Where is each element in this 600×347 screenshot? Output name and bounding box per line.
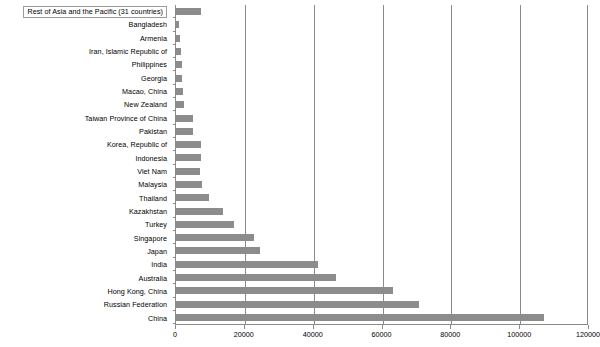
category-label: India [0,258,172,271]
bar[interactable] [176,287,393,294]
category-label: Bangladesh [0,18,172,31]
value-axis-tick-label: 20000 [234,331,254,338]
bar[interactable] [176,168,200,175]
bar-row [176,151,587,164]
category-label-text: Rest of Asia and the Pacific (31 countri… [23,6,167,18]
bar[interactable] [176,88,183,95]
category-label: Singapore [0,232,172,245]
category-tick-mark [173,323,176,324]
bar-row [176,231,587,244]
bar[interactable] [176,301,419,308]
bar-row [176,71,587,84]
bar-row [176,5,587,18]
value-axis-tick [244,325,245,329]
bar[interactable] [176,8,201,15]
bar-row [176,125,587,138]
bar[interactable] [176,181,202,188]
value-axis-tick-label: 40000 [303,331,323,338]
value-axis-tick [588,325,589,329]
bar-row [176,138,587,151]
bar[interactable] [176,194,209,201]
bar-row [176,98,587,111]
category-label: Macao, China [0,85,172,98]
bar-row [176,218,587,231]
category-label: Kazakhstan [0,205,172,218]
bar[interactable] [176,35,180,42]
bar-row [176,204,587,217]
plot-area [175,5,588,325]
category-label: Armenia [0,32,172,45]
bar-row [176,311,587,324]
category-axis-labels: Rest of Asia and the Pacific (31 countri… [0,5,172,325]
value-axis-tick [382,325,383,329]
category-label: Viet Nam [0,165,172,178]
category-label: Turkey [0,218,172,231]
bars-layer [176,5,587,324]
bar-row [176,165,587,178]
bar-row [176,85,587,98]
value-axis-tick [175,325,176,329]
bar-row [176,18,587,31]
category-label: Thailand [0,192,172,205]
category-label: Georgia [0,72,172,85]
bar-row [176,32,587,45]
bar-row [176,244,587,257]
bar[interactable] [176,314,544,321]
bar[interactable] [176,154,201,161]
bar[interactable] [176,21,179,28]
category-label: Taiwan Province of China [0,112,172,125]
bar-row [176,298,587,311]
bar-row [176,271,587,284]
category-label: Malaysia [0,178,172,191]
value-axis-tick-label: 60000 [372,331,392,338]
value-axis-tick [519,325,520,329]
category-label: Philippines [0,58,172,71]
category-label: China [0,312,172,325]
category-label: Indonesia [0,152,172,165]
bar[interactable] [176,75,182,82]
bar[interactable] [176,141,201,148]
category-label: Pakistan [0,125,172,138]
value-axis-tick-label: 100000 [507,331,531,338]
category-label: Hong Kong, China [0,285,172,298]
bar[interactable] [176,208,223,215]
bar-row [176,58,587,71]
bar[interactable] [176,115,193,122]
category-label: New Zealand [0,98,172,111]
value-axis-tick-label: 0 [173,331,177,338]
category-label: Japan [0,245,172,258]
bar-row [176,258,587,271]
bar-row [176,284,587,297]
value-axis-tick [313,325,314,329]
category-label: Iran, Islamic Republic of [0,45,172,58]
bar[interactable] [176,128,193,135]
bar[interactable] [176,274,336,281]
category-label: Rest of Asia and the Pacific (31 countri… [0,5,172,18]
value-axis: 020000400006000080000100000120000 [175,325,588,345]
bar[interactable] [176,261,318,268]
value-axis-tick-label: 80000 [440,331,460,338]
bar-row [176,45,587,58]
value-axis-tick [450,325,451,329]
bar-row [176,111,587,124]
bar[interactable] [176,48,181,55]
bar[interactable] [176,234,254,241]
bar-row [176,178,587,191]
category-label: Australia [0,272,172,285]
bar[interactable] [176,101,184,108]
category-label: Korea, Republic of [0,138,172,151]
value-axis-tick-label: 120000 [576,331,600,338]
bar[interactable] [176,221,234,228]
bar-row [176,191,587,204]
bar[interactable] [176,61,182,68]
category-label: Russian Federation [0,298,172,311]
bar[interactable] [176,247,260,254]
